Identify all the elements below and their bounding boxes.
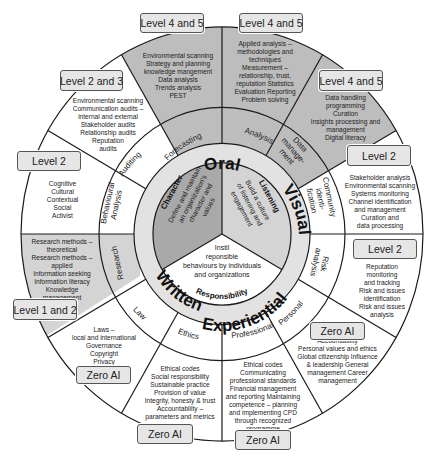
sector-item: Curation and [340, 214, 420, 222]
sector-item: Financial management [222, 385, 304, 393]
sector-item: Sustainable practice [138, 381, 222, 389]
sector-item: Social responsibility [138, 373, 222, 381]
sector-items-auditing: Environmental scanningCommunication audi… [68, 97, 148, 153]
sector-item: Contextual [40, 196, 85, 204]
sector-item: relationship, trust, [225, 72, 305, 80]
sector-item: management [303, 126, 388, 134]
level-badge-data-management: Level 4 and 5 [319, 70, 383, 91]
sector-item: analysis [352, 311, 412, 319]
level-badge-forecasting: Level 4 and 5 [140, 13, 204, 33]
sector-item: Environmental scanning [68, 97, 148, 105]
sector-item: Curation [303, 110, 388, 118]
level-badge-risk-analysis: Level 2 [353, 239, 417, 259]
sector-item: Evaluation Reporting [225, 88, 305, 96]
sector-item: Data handling [303, 94, 388, 102]
sector-item: Systems monitoring [340, 190, 420, 198]
level-badge-personal: Zero AI [310, 322, 365, 340]
sector-item: Integrity, honesty & trust [138, 397, 222, 405]
sector-items-forecasting: Environmental scanningStrategy and plann… [133, 52, 223, 100]
core-body-responsibility-3: behaviours by individuals [183, 262, 262, 270]
sector-item: management Career [290, 369, 385, 377]
sector-item: Strategy and planning [133, 60, 223, 68]
sector-item: Stakeholder analysis [340, 174, 420, 182]
sector-item: internal and external [68, 113, 148, 121]
sector-item: competence – planning [222, 401, 304, 409]
sector-item: Copyright [64, 350, 144, 358]
sector-items-professional: Ethical codesCommunicatingprofessional s… [222, 361, 304, 433]
sector-item: Digital literacy [303, 134, 388, 142]
sector-item: Accountability – [138, 405, 222, 413]
sector-item: Laws – [64, 326, 144, 334]
core-body-responsibility-2: reponsible [206, 253, 238, 261]
sector-item: Environmental scanning [340, 182, 420, 190]
sector-item: & leadership General [290, 361, 385, 369]
sector-item: Environmental scanning [133, 52, 223, 60]
sector-item: Trends analysis [133, 84, 223, 92]
sector-items-personal: AccountabilityPersonal values and ethics… [290, 337, 385, 385]
sector-item: parameters and metrics [138, 413, 222, 421]
sector-items-law: Laws –local and internationalGovernanceC… [64, 326, 144, 366]
sector-item: identification [352, 295, 412, 303]
sector-item: Social [40, 204, 85, 212]
sector-item: Communicating [222, 369, 304, 377]
sector-item: Risk and issues [352, 303, 412, 311]
sector-item: Provision of value [138, 389, 222, 397]
sector-item: Reputation [68, 137, 148, 145]
sector-item: Knowledge [26, 286, 98, 294]
sector-item: applied [26, 262, 98, 270]
level-badge-research: Level 1 and 2 [13, 299, 77, 320]
sector-item: Channel identification [340, 198, 420, 206]
sector-item: Reputation [352, 263, 412, 271]
sector-item: and implementing CPD [222, 409, 304, 417]
level-badge-behavioural-analysis: Level 2 [17, 151, 81, 171]
sector-item: professional standards [222, 377, 304, 385]
sector-items-ethics: Ethical codesSocial responsibilitySustai… [138, 365, 222, 421]
sector-item: Insights processing and [303, 118, 388, 126]
sector-item: knowledge mangement [133, 68, 223, 76]
sector-items-community-identification: Stakeholder analysisEnvironmental scanni… [340, 174, 420, 230]
sector-item: theoretical [26, 246, 98, 254]
sector-item: Applied analysis – [225, 40, 305, 48]
sector-item: monitoring [352, 271, 412, 279]
core-body-responsibility-1: Instil [215, 244, 230, 251]
core-body-responsibility-4: and organizations [194, 271, 250, 279]
sector-items-risk-analysis: Reputationmonitoringand trackingRisk and… [352, 263, 412, 319]
sector-item: Privacy [64, 358, 144, 366]
sector-items-analysis: Applied analysis –methodologies andtechn… [225, 40, 305, 104]
sector-item: techniques [225, 56, 305, 64]
sector-item: Governance [64, 342, 144, 350]
sector-item: methodologies and [225, 48, 305, 56]
sector-items-data-management: Data handlingprogrammingCurationInsights… [303, 94, 388, 142]
sector-item: and management [340, 206, 420, 214]
sector-item: programming [303, 102, 388, 110]
sector-item: Problem solving [225, 96, 305, 104]
sector-item: Cognitive [40, 180, 85, 188]
sector-item: Ethical codes [222, 361, 304, 369]
sector-item: data processing [340, 222, 420, 230]
level-badge-ethics: Zero AI [137, 424, 193, 444]
sector-item: Research methods – [26, 254, 98, 262]
sector-item: Research methods – [26, 238, 98, 246]
sector-item: Relationship audits [68, 129, 148, 137]
sector-item: Information literacy [26, 278, 98, 286]
sector-item: Stakeholder audits [68, 121, 148, 129]
sector-item: Measurement – [225, 64, 305, 72]
level-badge-professional: Zero AI [235, 430, 291, 450]
level-badge-auditing: Level 2 and 3 [60, 70, 123, 91]
level-badge-analysis: Level 4 and 5 [239, 13, 303, 33]
sector-item: through recognized [222, 417, 304, 425]
sector-item: Global citizenship Influence [290, 353, 385, 361]
sector-item: management [290, 377, 385, 385]
sector-item: and tracking [352, 279, 412, 287]
level-badge-law: Zero AI [76, 366, 131, 384]
sector-item: reputation Statistics [225, 80, 305, 88]
sector-item: Information seeking [26, 270, 98, 278]
sector-item: local and international [64, 334, 144, 342]
sector-item: Activist [40, 212, 85, 220]
sector-item: Personal values and ethics [290, 345, 385, 353]
level-badge-community-identification: Level 2 [347, 145, 411, 166]
sector-item: and reporting Maintaining [222, 393, 304, 401]
sector-item: Risk and issues [352, 287, 412, 295]
sector-item: Ethical codes [138, 365, 222, 373]
sector-item: Data analysis [133, 76, 223, 84]
